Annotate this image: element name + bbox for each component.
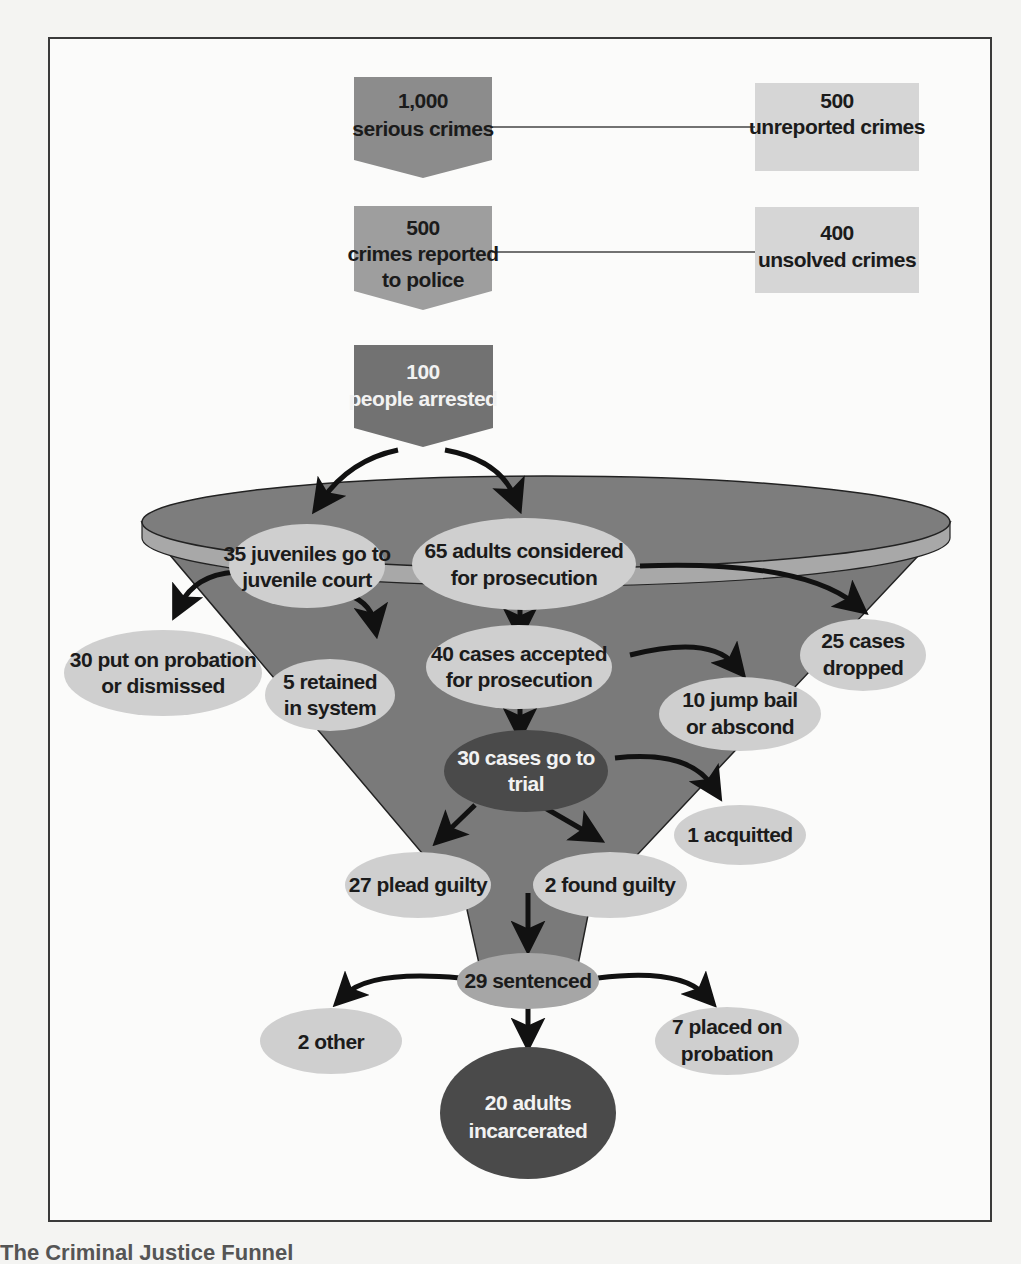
- svg-text:or abscond: or abscond: [686, 715, 794, 738]
- node-accepted: 40 cases accepted for prosecution: [426, 625, 612, 709]
- svg-text:unsolved crimes: unsolved crimes: [758, 248, 916, 271]
- node-sentenced: 29 sentenced: [457, 953, 599, 1009]
- node-probation-dismissed: 30 put on probation or dismissed: [64, 630, 262, 716]
- svg-text:100: 100: [406, 360, 440, 383]
- node-jump-bail: 10 jump bail or abscond: [659, 677, 821, 751]
- svg-text:5 retained: 5 retained: [283, 670, 377, 693]
- svg-text:400: 400: [820, 221, 854, 244]
- node-placed-probation: 7 placed on probation: [655, 1007, 799, 1075]
- svg-text:unreported crimes: unreported crimes: [749, 115, 925, 138]
- svg-text:25 cases: 25 cases: [821, 629, 905, 652]
- svg-text:juvenile court: juvenile court: [241, 568, 372, 591]
- svg-text:people arrested: people arrested: [349, 387, 498, 410]
- svg-text:27 plead guilty: 27 plead guilty: [349, 873, 488, 896]
- svg-text:for prosecution: for prosecution: [446, 668, 593, 691]
- node-dropped: 25 cases dropped: [800, 619, 926, 691]
- node-trial: 30 cases go to trial: [444, 730, 608, 812]
- svg-text:incarcerated: incarcerated: [469, 1119, 588, 1142]
- svg-text:for prosecution: for prosecution: [451, 566, 598, 589]
- node-retained: 5 retained in system: [265, 659, 395, 731]
- svg-text:2 other: 2 other: [298, 1030, 365, 1053]
- svg-text:65 adults considered: 65 adults considered: [425, 539, 624, 562]
- node-found-guilty: 2 found guilty: [533, 852, 687, 918]
- svg-text:crimes reported: crimes reported: [347, 242, 498, 265]
- svg-text:500: 500: [406, 216, 440, 239]
- svg-text:or dismissed: or dismissed: [101, 674, 225, 697]
- svg-text:2 found guilty: 2 found guilty: [545, 873, 676, 896]
- svg-text:dropped: dropped: [823, 656, 904, 679]
- node-plead-guilty: 27 plead guilty: [345, 852, 491, 918]
- svg-text:1 acquitted: 1 acquitted: [687, 823, 792, 846]
- box-unsolved-crimes: 400 unsolved crimes: [755, 207, 919, 293]
- svg-text:29 sentenced: 29 sentenced: [464, 969, 591, 992]
- box-crimes-reported: 500 crimes reported to police: [347, 206, 498, 310]
- svg-text:trial: trial: [508, 772, 544, 795]
- node-incarcerated: 20 adults incarcerated: [440, 1047, 616, 1179]
- svg-text:20 adults: 20 adults: [485, 1091, 572, 1114]
- svg-text:500: 500: [820, 89, 854, 112]
- svg-text:35 juveniles go to: 35 juveniles go to: [223, 542, 390, 565]
- svg-text:40 cases accepted: 40 cases accepted: [431, 642, 607, 665]
- svg-text:7 placed on: 7 placed on: [672, 1015, 782, 1038]
- svg-text:10 jump bail: 10 jump bail: [682, 688, 797, 711]
- svg-text:1,000: 1,000: [398, 89, 448, 112]
- svg-text:serious crimes: serious crimes: [352, 117, 493, 140]
- box-people-arrested: 100 people arrested: [349, 345, 498, 447]
- box-serious-crimes: 1,000 serious crimes: [352, 77, 493, 178]
- figure-caption: The Criminal Justice Funnel: [0, 1240, 293, 1264]
- node-other: 2 other: [260, 1008, 402, 1074]
- svg-text:30 put on probation: 30 put on probation: [70, 648, 256, 671]
- svg-text:to police: to police: [382, 268, 464, 291]
- node-acquitted: 1 acquitted: [674, 805, 806, 865]
- node-adults: 65 adults considered for prosecution: [412, 518, 636, 610]
- box-unreported-crimes: 500 unreported crimes: [749, 83, 925, 171]
- svg-text:30 cases go to: 30 cases go to: [457, 746, 595, 769]
- svg-text:probation: probation: [681, 1042, 773, 1065]
- svg-text:in system: in system: [284, 696, 376, 719]
